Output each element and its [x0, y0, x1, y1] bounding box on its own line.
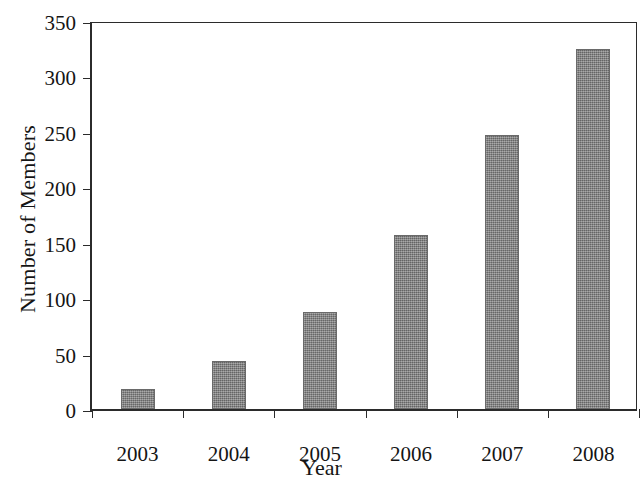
bar-2006 [394, 235, 428, 410]
y-axis-title: Number of Members [15, 79, 41, 359]
y-tick-150: 150 [83, 245, 92, 246]
x-tick-boundary-2 [274, 409, 275, 418]
x-tick-boundary-0 [92, 409, 93, 418]
x-tick-boundary-6 [639, 409, 640, 418]
y-tick-350: 350 [83, 23, 92, 24]
x-tick-boundary-4 [457, 409, 458, 418]
y-tick-label-350: 350 [45, 12, 77, 34]
bar-2003 [121, 389, 155, 409]
x-tick-boundary-3 [366, 409, 367, 418]
y-tick-label-0: 0 [66, 400, 77, 422]
x-axis-title: Year [0, 455, 643, 481]
y-tick-250: 250 [83, 134, 92, 135]
bar-2004 [212, 361, 246, 409]
y-tick-100: 100 [83, 300, 92, 301]
y-tick-50: 50 [83, 356, 92, 357]
y-tick-label-250: 250 [45, 123, 77, 145]
bar-2008 [576, 49, 610, 409]
bar-chart-figure: Number of Members 0 50 100 150 200 250 3… [0, 0, 643, 490]
bar-2007 [485, 135, 519, 410]
plot-area: 0 50 100 150 200 250 300 350 [90, 22, 637, 411]
bar-2005 [303, 312, 337, 409]
y-tick-300: 300 [83, 78, 92, 79]
y-tick-label-100: 100 [45, 289, 77, 311]
x-tick-boundary-1 [183, 409, 184, 418]
x-tick-boundary-5 [548, 409, 549, 418]
y-tick-0: 0 [83, 411, 92, 412]
y-tick-label-50: 50 [55, 345, 76, 367]
y-tick-label-300: 300 [45, 67, 77, 89]
y-tick-200: 200 [83, 189, 92, 190]
y-tick-label-150: 150 [45, 234, 77, 256]
y-tick-label-200: 200 [45, 178, 77, 200]
